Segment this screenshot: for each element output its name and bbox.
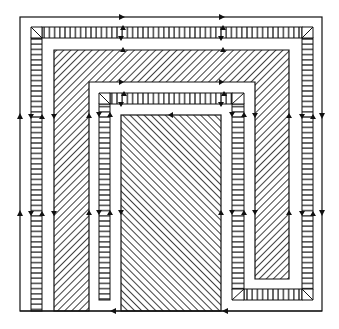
- hatched-region-diagram: [0, 0, 339, 329]
- bottom-right-band: [232, 289, 313, 300]
- diagram-canvas: [0, 0, 339, 329]
- center-hatched-region: [121, 115, 221, 311]
